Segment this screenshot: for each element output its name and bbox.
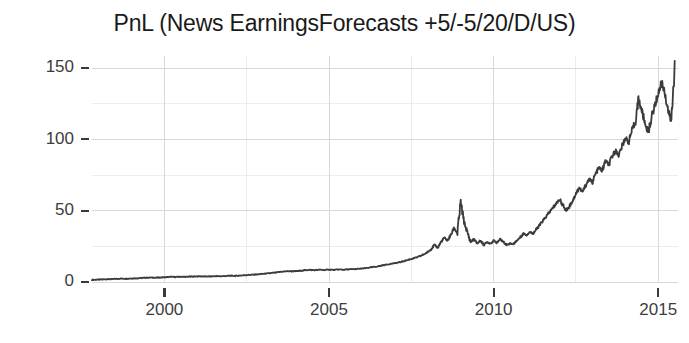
y-tick-label: 150 xyxy=(46,57,74,76)
x-tick-label: 2000 xyxy=(146,300,184,319)
y-tick-label: 100 xyxy=(46,129,74,148)
pnl-line-series xyxy=(92,61,675,280)
chart-container: PnL (News EarningsForecasts +5/-5/20/D/U… xyxy=(0,0,689,343)
y-tick-label: 0 xyxy=(65,271,74,290)
x-tick-label: 2015 xyxy=(639,300,677,319)
x-axis-ticks: 2000200520102015 xyxy=(146,288,678,319)
x-tick-label: 2010 xyxy=(475,300,513,319)
y-axis-ticks: 050100150 xyxy=(46,57,89,290)
data-series-group xyxy=(92,61,675,280)
minor-gridlines xyxy=(92,56,678,282)
y-tick-label: 50 xyxy=(55,200,74,219)
plot-area: 050100150 2000200520102015 xyxy=(0,0,689,343)
x-tick-label: 2005 xyxy=(310,300,348,319)
major-gridlines xyxy=(92,56,678,282)
